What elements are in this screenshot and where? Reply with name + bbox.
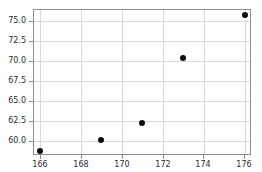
data-point: [37, 148, 43, 154]
data-point: [139, 120, 145, 126]
y-axis-tick-label: 67.5: [0, 76, 26, 85]
y-axis-tick-label: 65.0: [0, 96, 26, 105]
x-axis-tick-label: 176: [229, 160, 259, 169]
x-tick-mark: [244, 155, 245, 159]
x-tick-mark: [203, 155, 204, 159]
clipped-caption-artifact: [40, 168, 220, 171]
y-axis-tick-label: 70.0: [0, 56, 26, 65]
x-tick-mark: [40, 155, 41, 159]
gridline-vertical: [163, 10, 164, 154]
y-axis-tick-label: 62.5: [0, 116, 26, 125]
x-tick-mark: [122, 155, 123, 159]
gridline-horizontal: [34, 101, 250, 102]
plot-area: [33, 9, 251, 155]
gridline-horizontal: [34, 21, 250, 22]
x-tick-mark: [81, 155, 82, 159]
gridline-vertical: [40, 10, 41, 154]
x-tick-mark: [163, 155, 164, 159]
gridline-vertical: [245, 10, 246, 154]
y-axis-tick-label: 60.0: [0, 136, 26, 145]
data-point: [98, 137, 104, 143]
y-axis-tick-label: 75.0: [0, 16, 26, 25]
gridline-horizontal: [34, 81, 250, 82]
gridline-vertical: [204, 10, 205, 154]
gridline-horizontal: [34, 141, 250, 142]
gridline-horizontal: [34, 41, 250, 42]
gridline-vertical: [81, 10, 82, 154]
gridline-vertical: [122, 10, 123, 154]
gridline-horizontal: [34, 61, 250, 62]
scatter-chart-figure: 75.0 72.5 70.0 67.5 65.0 62.5 60.0 166 1…: [0, 0, 262, 172]
data-point: [180, 55, 186, 61]
y-axis-tick-label: 72.5: [0, 36, 26, 45]
data-point: [242, 12, 248, 18]
